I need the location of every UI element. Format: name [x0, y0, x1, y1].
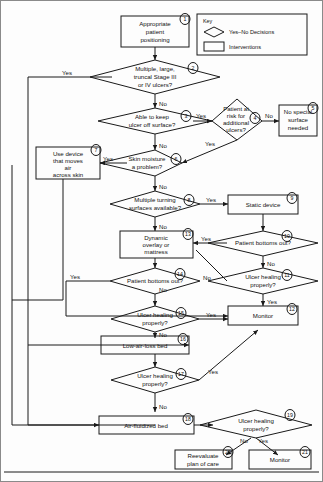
- node-4-patient-at-risk-additional-ulcers[interactable]: Patient at risk for additional ulcers? 4: [212, 99, 262, 140]
- node-11-line-0: Ulcer healing: [245, 273, 281, 280]
- node-6-line-0: Skin moisture: [129, 155, 167, 162]
- node-17-line-1: properly?: [142, 380, 168, 387]
- node-11-number: 11: [284, 272, 289, 278]
- node-9-number: 9: [291, 195, 294, 201]
- edge-2-yes-path: [28, 77, 112, 345]
- node-8-line-1: surfaces available?: [129, 204, 182, 211]
- node-19-number: 19: [287, 412, 293, 418]
- node-5-number: 5: [312, 105, 315, 111]
- node-6-line-1: a problem?: [132, 163, 163, 170]
- node-11-line-1: properly?: [250, 281, 276, 288]
- node-15-ulcer-healing-properly-dynamic[interactable]: Ulcer healing properly? 15: [111, 306, 199, 332]
- node-12-line-0: Monitor: [253, 312, 273, 319]
- node-9-line-0: Static device: [246, 201, 281, 208]
- node-4-line-1: risk for: [227, 112, 245, 119]
- node-21-number: 21: [302, 449, 308, 455]
- flowchart-canvas: Key Yes–No Decisions Interventions: [0, 0, 323, 482]
- edge-label-4-no: No: [265, 112, 273, 119]
- node-1-appropriate-patient-positioning[interactable]: Appropriate patient positioning 1: [121, 14, 190, 48]
- edge-label-10-yes: Yes: [201, 235, 211, 242]
- edge-7-out: [12, 179, 63, 300]
- node-7-line-2: air: [65, 164, 72, 171]
- node-13-line-1: overlay or: [143, 241, 170, 248]
- node-4-line-2: additional: [223, 119, 249, 126]
- edge-label-19-no: No: [240, 437, 248, 444]
- node-19-line-0: Ulcer healing: [238, 417, 274, 424]
- node-5-line-1: surface: [288, 116, 309, 123]
- node-13-dynamic-overlay-or-mattress[interactable]: Dynamic overlay or mattress 13: [120, 229, 193, 259]
- node-13-number: 13: [185, 231, 191, 237]
- node-12-number: 12: [289, 306, 295, 312]
- node-17-number: 17: [178, 371, 184, 377]
- edge-label-19-yes: Yes: [258, 437, 268, 444]
- flowchart-page: Key Yes–No Decisions Interventions: [0, 0, 323, 482]
- node-8-multiple-turning-surfaces[interactable]: Multiple turning surfaces available? 8: [110, 191, 200, 217]
- node-16-line-0: Low-air-loss bed: [123, 342, 168, 349]
- node-20-reevaluate-plan-of-care[interactable]: Reevaluate plan of care 20: [175, 447, 233, 470]
- node-3-line-1: ulcer off surface?: [129, 121, 176, 128]
- edge-label-8-no: No: [159, 223, 167, 230]
- node-18-line-0: Air-fluidized bed: [124, 422, 168, 429]
- node-10-number: 10: [284, 233, 290, 239]
- node-1-line-1: patient: [146, 28, 165, 35]
- node-2-line-1: truncal Stage III: [134, 73, 177, 80]
- node-16-number: 16: [180, 336, 186, 342]
- node-17-line-0: Ulcer healing: [137, 372, 173, 379]
- node-7-line-3: across skin: [53, 171, 83, 178]
- edge-label-15-yes: Yes: [206, 311, 216, 318]
- node-1-line-2: positioning: [140, 36, 169, 43]
- node-12-monitor[interactable]: Monitor 12: [228, 304, 298, 326]
- edge-label-14-yes: Yes: [70, 273, 80, 280]
- node-20-line-1: plan of care: [187, 460, 219, 467]
- node-3-number: 3: [185, 113, 188, 119]
- node-2-line-0: Multiple, large,: [135, 65, 175, 72]
- node-7-use-device-moves-air[interactable]: Use device that moves air across skin 7: [36, 145, 101, 180]
- node-21-monitor-final[interactable]: Monitor 21: [249, 447, 311, 470]
- node-20-line-0: Reevaluate: [188, 452, 219, 459]
- node-17-ulcer-healing-properly-lowairloss[interactable]: Ulcer healing properly? 17: [111, 367, 199, 393]
- node-14-patient-bottoms-out-dynamic[interactable]: Patient bottoms out? 14: [110, 268, 200, 294]
- edge-label-11-yes: Yes: [267, 298, 277, 305]
- node-14-line-0: Patient bottoms out?: [127, 277, 184, 284]
- node-18-air-fluidized-bed[interactable]: Air-fluidized bed 18: [99, 414, 194, 435]
- node-7-line-0: Use device: [53, 150, 84, 157]
- edge-label-11-no: No: [203, 274, 211, 281]
- node-5-line-2: needed: [288, 124, 308, 131]
- node-13-line-0: Dynamic: [144, 234, 168, 241]
- edge-label-17-yes: Yes: [208, 368, 218, 375]
- edge-label-4-yes: Yes: [205, 140, 215, 147]
- edge-label-6-no: No: [159, 183, 167, 190]
- node-1-line-0: Appropriate: [139, 20, 171, 27]
- node-15-number: 15: [178, 310, 184, 316]
- node-20-number: 20: [225, 449, 231, 455]
- key-item-interventions-label: Interventions: [229, 44, 261, 50]
- key-item-decisions-label: Yes–No Decisions: [229, 29, 274, 35]
- edge-label-15-no: No: [159, 331, 167, 338]
- edge-label-17-no: No: [159, 403, 167, 410]
- edge-label-2-yes: Yes: [62, 69, 72, 76]
- node-19-ulcer-healing-properly-airfluidized[interactable]: Ulcer healing properly? 19: [200, 410, 312, 439]
- node-5-no-special-surface-needed[interactable]: No special surface needed 5: [279, 103, 318, 137]
- node-4-number: 4: [254, 115, 257, 121]
- node-8-line-0: Multiple turning: [134, 196, 175, 203]
- node-8-number: 8: [188, 197, 191, 203]
- edge-11-no: [196, 250, 227, 281]
- node-2-line-2: or IV ulcers?: [138, 81, 173, 88]
- edge-label-3-no: No: [159, 142, 167, 149]
- node-2-number: 2: [192, 65, 195, 71]
- node-15-line-0: Ulcer healing: [137, 311, 173, 318]
- node-4-line-0: Patient at: [223, 105, 249, 112]
- node-4-line-3: ulcers?: [226, 126, 246, 133]
- key-heading: Key: [203, 18, 213, 24]
- node-6-number: 6: [175, 156, 178, 162]
- key-legend: Key Yes–No Decisions Interventions: [197, 14, 307, 55]
- node-19-line-1: properly?: [243, 425, 269, 432]
- node-14-number: 14: [177, 271, 183, 277]
- node-15-line-1: properly?: [142, 319, 168, 326]
- node-7-number: 7: [95, 147, 98, 153]
- node-21-line-0: Monitor: [270, 456, 290, 463]
- node-9-static-device[interactable]: Static device 9: [228, 193, 298, 215]
- edge-label-2-no: No: [159, 100, 167, 107]
- node-11-ulcer-healing-properly-static[interactable]: Ulcer healing properly? 11: [208, 268, 318, 294]
- node-16-low-air-loss-bed[interactable]: Low-air-loss bed 16: [101, 334, 189, 355]
